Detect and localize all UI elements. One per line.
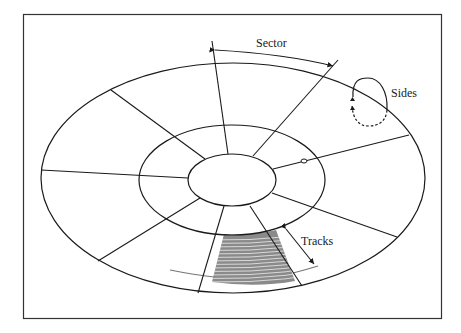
spoke-lower-left bbox=[98, 198, 200, 261]
sides-label: Sides bbox=[391, 87, 417, 99]
index-hole bbox=[301, 159, 307, 163]
sector-label: Sector bbox=[256, 37, 287, 49]
spoke-upper-right bbox=[253, 60, 338, 156]
spoke-lower-right bbox=[272, 193, 397, 237]
spoke-top bbox=[212, 41, 228, 154]
sides-loop-icon bbox=[350, 78, 387, 126]
disk-diagram bbox=[0, 0, 461, 333]
spoke-left bbox=[41, 170, 188, 178]
track-shading bbox=[170, 230, 320, 285]
spoke-right bbox=[273, 135, 409, 169]
spoke-upper-left bbox=[111, 90, 205, 159]
tracks-label: Tracks bbox=[301, 235, 333, 247]
hub-ring bbox=[188, 154, 276, 206]
